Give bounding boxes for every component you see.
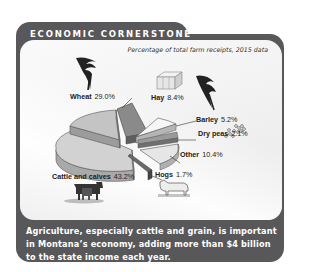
label-hay: Hay8.4% — [151, 93, 184, 102]
cattle-icon — [64, 182, 104, 204]
label-barley: Barley5.2% — [196, 115, 237, 124]
hay-bale-icon — [157, 72, 182, 89]
label-wheat: Wheat29.0% — [70, 92, 115, 101]
caption-text: Agriculture, especially cattle and grain… — [26, 225, 278, 264]
wheat-icon — [76, 58, 96, 91]
label-other: Other10.4% — [180, 150, 223, 159]
label-dry-peas: Dry peas2.1% — [198, 129, 248, 138]
hog-icon — [158, 180, 190, 197]
label-hogs: Hogs1.7% — [155, 170, 192, 179]
barley-icon — [196, 76, 216, 110]
label-cattle-and-calves: Cattle and calves43.2% — [52, 172, 134, 181]
